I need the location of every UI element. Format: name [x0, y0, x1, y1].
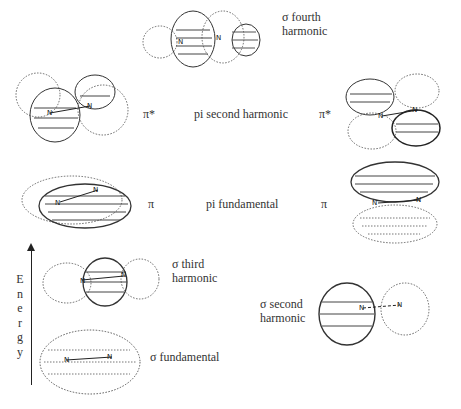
pi-fundamental-label: pi fundamental	[206, 197, 278, 211]
sigma-second-label: σ second harmonic	[260, 297, 305, 325]
sigma-fundamental-label: σ fundamental	[150, 350, 219, 364]
svg-text:N: N	[47, 109, 52, 117]
svg-text:N: N	[121, 271, 126, 279]
svg-text:N: N	[64, 356, 69, 364]
pi-star-left-orbital	[16, 73, 128, 142]
svg-text:N: N	[359, 304, 364, 312]
pi-left-orbital	[22, 176, 131, 228]
pi-right-orbital	[351, 162, 439, 243]
sigma-third-label: σ third harmonic	[172, 257, 217, 285]
sigma-fourth-label: σ fourth harmonic	[282, 10, 327, 38]
svg-text:N: N	[55, 199, 60, 207]
svg-text:N: N	[412, 106, 417, 114]
svg-text:N: N	[80, 277, 85, 285]
pi-star-left-symbol: π*	[143, 107, 155, 121]
energy-axis	[31, 245, 32, 385]
svg-text:N: N	[216, 34, 221, 42]
svg-text:N: N	[87, 102, 92, 110]
svg-text:N: N	[93, 186, 98, 194]
svg-text:N: N	[416, 196, 421, 204]
pi-right-symbol: π	[321, 197, 327, 211]
pi-star-right-orbital	[346, 74, 440, 149]
pi-star-right-symbol: π*	[319, 107, 331, 121]
sigma-fundamental-orbital	[40, 330, 140, 394]
sigma-fourth-orbital	[143, 11, 260, 67]
sigma-second-orbital	[319, 283, 429, 345]
energy-axis-label: E n e r g y	[15, 272, 25, 359]
svg-text:N: N	[107, 353, 112, 361]
svg-text:N: N	[397, 301, 402, 309]
pi-left-symbol: π	[148, 197, 154, 211]
svg-text:N: N	[372, 199, 377, 207]
sigma-third-orbital	[43, 258, 159, 306]
svg-text:N: N	[178, 38, 183, 46]
pi-second-label: pi second harmonic	[194, 107, 288, 121]
svg-text:N: N	[378, 112, 383, 120]
